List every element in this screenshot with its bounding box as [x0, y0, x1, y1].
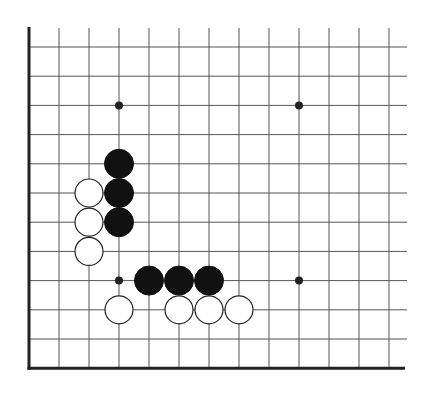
black-stone[interactable] — [135, 266, 164, 295]
star-point-icon — [295, 101, 303, 109]
star-point-icon — [115, 277, 123, 285]
black-stone[interactable] — [165, 266, 194, 295]
white-stone[interactable] — [75, 208, 103, 236]
black-stone[interactable] — [195, 266, 224, 295]
black-stone[interactable] — [105, 149, 134, 178]
black-stone[interactable] — [105, 208, 134, 237]
go-board[interactable] — [0, 0, 428, 397]
stones — [75, 149, 253, 323]
black-stone[interactable] — [105, 179, 134, 208]
white-stone[interactable] — [225, 296, 253, 324]
white-stone[interactable] — [105, 296, 133, 324]
white-stone[interactable] — [195, 296, 223, 324]
white-stone[interactable] — [75, 237, 103, 265]
white-stone[interactable] — [165, 296, 193, 324]
star-point-icon — [115, 101, 123, 109]
white-stone[interactable] — [75, 179, 103, 207]
star-point-icon — [295, 277, 303, 285]
